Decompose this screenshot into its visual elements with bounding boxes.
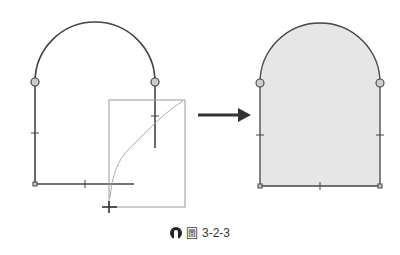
right-endpoint-circle-icon[interactable] [151,78,159,86]
right-right-endpoint-circle-icon[interactable] [376,79,384,87]
right-sketch [256,23,384,190]
caption-number: 3-2-3 [202,226,230,240]
bullet-circle-icon [170,227,182,239]
left-endpoint-circle-icon[interactable] [31,78,39,86]
move-cursor-icon [102,201,117,213]
right-left-endpoint-circle-icon[interactable] [256,79,264,87]
figure-canvas [0,0,400,255]
caption-label: 圖 [186,224,198,241]
right-arrow-icon [198,108,251,122]
figure-caption: 圖 3-2-3 [0,224,400,241]
left-sketch [31,22,159,188]
selection-box [109,100,185,207]
